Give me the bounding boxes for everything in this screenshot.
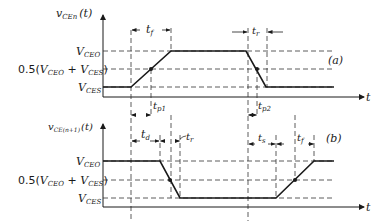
label-tr-b: tr [186, 131, 194, 144]
panel-tag-a: (a) [328, 54, 343, 67]
timing-diagram: tf tr (a) t vCEn(t) VCEO 0.5(VCEO + VCES… [0, 0, 381, 221]
label-td-b: td [141, 128, 150, 142]
waveform-b [103, 161, 334, 198]
midpoint-dot-b2 [293, 178, 297, 182]
midpoint-dot-a1 [149, 67, 153, 71]
panel-tag-b: (b) [326, 132, 342, 145]
midpoint-dot-a2 [255, 67, 259, 71]
level-vces-b: VCES [78, 192, 101, 206]
label-tf-a: tf [146, 23, 154, 37]
label-ts-b: ts [258, 132, 266, 145]
label-tp1: tp1 [153, 100, 166, 113]
level-vces-a: VCES [78, 81, 101, 95]
label-tp2: tp2 [258, 100, 272, 113]
label-tr-a: tr [252, 25, 260, 38]
level-lines-b [103, 115, 334, 198]
y-label-b: vCE(n+1)(t) [48, 121, 93, 133]
level-vceo-b: VCEO [76, 155, 100, 169]
t-label-a: t [366, 91, 371, 104]
level-mid-b: 0.5(VCEO + VCES) [18, 174, 108, 188]
panel-b: td tr ts tf (b) t vCE(n+1)(t) VCEO 0.5(V… [18, 115, 371, 214]
level-mid-a: 0.5(VCEO + VCES) [18, 63, 108, 77]
t-label-b: t [366, 201, 371, 214]
label-tf-b: tf [297, 132, 305, 145]
midpoint-dot-b1 [168, 178, 172, 182]
y-label-a: vCEn(t) [56, 7, 92, 21]
level-lines-a [103, 28, 334, 221]
panel-a: tf tr (a) t vCEn(t) VCEO 0.5(VCEO + VCES… [18, 7, 371, 221]
level-vceo-a: VCEO [76, 45, 100, 59]
